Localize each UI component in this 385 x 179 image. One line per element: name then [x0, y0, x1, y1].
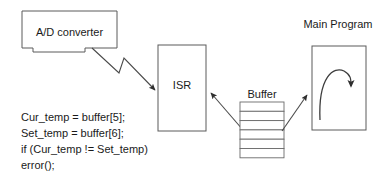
connector-adc-to-isr — [92, 48, 155, 90]
connector-buffer-to-main-program — [282, 95, 307, 131]
buffer-cell — [240, 139, 284, 148]
node-main-program[interactable]: Main Program — [303, 18, 372, 130]
interrupt-buffer-diagram: A/D converter ISR Buffer — [0, 0, 385, 179]
buffer-to-isr-arrow-icon — [211, 93, 243, 130]
buffer-to-main-arrow-icon — [282, 95, 307, 131]
code-block: Cur_temp = buffer[5]; Set_temp = buffer[… — [21, 111, 148, 171]
code-line: error(); — [21, 159, 55, 171]
buffer-cell — [240, 111, 284, 120]
buffer-cell — [240, 130, 284, 139]
code-line: Set_temp = buffer[6]; — [21, 127, 124, 139]
lightning-bolt-arrow-icon — [92, 48, 155, 90]
diagram-canvas: A/D converter ISR Buffer — [0, 0, 385, 179]
isr-label: ISR — [173, 79, 191, 91]
buffer-cell — [240, 121, 284, 130]
buffer-cell-stack — [240, 102, 284, 158]
node-isr[interactable]: ISR — [158, 45, 206, 131]
buffer-cell — [240, 102, 284, 111]
code-line: Cur_temp = buffer[5]; — [21, 111, 125, 123]
adc-label: A/D converter — [36, 26, 104, 38]
connector-buffer-to-isr — [211, 93, 243, 130]
node-adc[interactable]: A/D converter — [22, 11, 117, 52]
main-program-label: Main Program — [303, 18, 372, 30]
buffer-cell — [240, 149, 284, 158]
node-buffer[interactable]: Buffer — [240, 88, 284, 158]
code-line: if (Cur_temp != Set_temp) — [21, 143, 148, 155]
buffer-label: Buffer — [247, 88, 276, 100]
